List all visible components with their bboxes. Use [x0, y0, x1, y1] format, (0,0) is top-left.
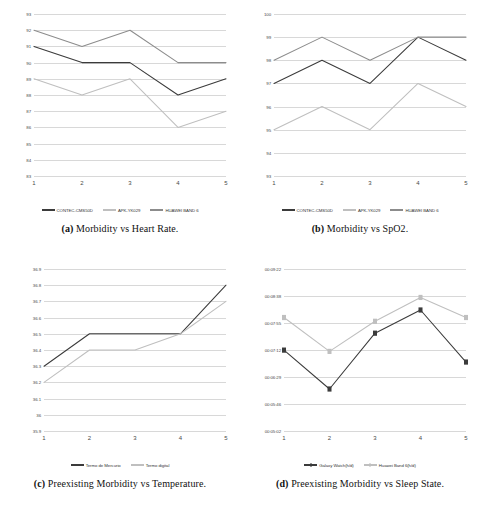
- legend-label: HUAWEI BAND 6: [405, 208, 438, 213]
- y-axis-tick-label: 36.1: [33, 396, 41, 401]
- y-axis-tick-label: 90: [26, 60, 31, 65]
- figure-grid: 838485868788899091929312345 CONTEC-CMS50…: [0, 0, 480, 510]
- data-point-marker: [464, 315, 468, 320]
- legend-swatch: [343, 209, 356, 211]
- data-point-marker: [327, 349, 331, 354]
- legend-swatch: [131, 464, 144, 466]
- data-point-marker: [418, 307, 422, 312]
- legend-item[interactable]: APK-YK029: [103, 208, 140, 213]
- legend-item[interactable]: HUAWEI BAND 6: [150, 208, 198, 213]
- legend-item[interactable]: CONTEC-CMS50D: [42, 208, 93, 213]
- x-axis-tick-label: 5: [224, 435, 227, 441]
- series-line: [34, 79, 226, 128]
- x-axis-tick-label: 2: [328, 435, 331, 441]
- caption-c: (c) Preexisting Morbidity vs Temperature…: [34, 478, 206, 489]
- caption-b: (b) Morbidity vs SpO2.: [312, 223, 409, 234]
- legend-item[interactable]: CONTEC-CMS50D: [282, 208, 333, 213]
- series-line: [44, 285, 226, 366]
- legend-item[interactable]: HUAWEI BAND 6: [390, 208, 438, 213]
- caption-tag-d: (d): [276, 478, 289, 489]
- legend-swatch: [150, 209, 163, 211]
- legend-label: CONTEC-CMS50D: [297, 208, 333, 213]
- gridline: [284, 431, 466, 432]
- y-axis-tick-label: 89: [26, 76, 31, 81]
- legend-a: CONTEC-CMS50DAPK-YK029HUAWEI BAND 6: [42, 204, 199, 216]
- y-axis-tick-label: 35.9: [33, 429, 41, 434]
- y-axis-tick-label: 86: [26, 125, 31, 130]
- x-axis-tick-label: 1: [32, 180, 35, 186]
- legend-d: Galaxy Watch(h/d)Huawei Band 6(h/d): [304, 459, 416, 471]
- series-layer: [44, 269, 226, 431]
- y-axis-tick-label: 00:07:55: [265, 321, 281, 326]
- x-axis-tick-label: 5: [224, 180, 227, 186]
- plot-area-c: 35.93636.136.236.336.436.536.636.736.836…: [44, 269, 226, 431]
- legend-label: Termo digital: [146, 463, 170, 468]
- chart-c: 35.93636.136.236.336.436.536.636.736.836…: [6, 261, 234, 457]
- x-axis-tick-label: 1: [272, 180, 275, 186]
- panel-a: 838485868788899091929312345 CONTEC-CMS50…: [0, 0, 240, 255]
- legend-item[interactable]: Termo digital: [131, 463, 170, 468]
- legend-item[interactable]: Galaxy Watch(h/d): [304, 463, 354, 468]
- y-axis-tick-label: 00:05:02: [265, 429, 281, 434]
- legend-c: Termo de MercurioTermo digital: [71, 459, 170, 471]
- gridline: [44, 431, 226, 432]
- y-axis-tick-label: 36.7: [33, 299, 41, 304]
- caption-tag-a: (a): [62, 223, 74, 234]
- legend-label: Galaxy Watch(h/d): [319, 463, 354, 468]
- data-point-marker: [373, 319, 377, 324]
- data-point-marker: [282, 348, 286, 353]
- y-axis-tick-label: 87: [26, 109, 31, 114]
- y-axis-tick-label: 83: [26, 174, 31, 179]
- caption-a: (a) Morbidity vs Heart Rate.: [62, 223, 179, 234]
- series-line: [44, 301, 226, 382]
- y-axis-tick-label: 36.3: [33, 364, 41, 369]
- y-axis-tick-label: 00:05:46: [265, 402, 281, 407]
- chart-a: 838485868788899091929312345: [6, 6, 234, 202]
- series-line: [274, 83, 466, 129]
- y-axis-tick-label: 92: [26, 28, 31, 33]
- series-layer: [34, 14, 226, 176]
- legend-item[interactable]: Huawei Band 6(h/d): [364, 463, 416, 468]
- y-axis-tick-label: 36.6: [33, 315, 41, 320]
- panel-b: 9394959697989910012345 CONTEC-CMS50DAPK-…: [240, 0, 480, 255]
- x-axis-tick-label: 4: [176, 180, 179, 186]
- x-axis-tick-label: 2: [80, 180, 83, 186]
- y-axis-tick-label: 100: [264, 12, 271, 17]
- y-axis-tick-label: 97: [266, 81, 271, 86]
- legend-swatch: [42, 209, 55, 211]
- data-point-marker: [373, 331, 377, 336]
- legend-swatch: [304, 464, 317, 466]
- y-axis-tick-label: 94: [266, 150, 271, 155]
- legend-item[interactable]: APK-YK029: [343, 208, 380, 213]
- legend-swatch: [390, 209, 403, 211]
- legend-item[interactable]: Termo de Mercurio: [71, 463, 121, 468]
- panel-c: 35.93636.136.236.336.436.536.636.736.836…: [0, 255, 240, 510]
- data-point-marker: [464, 359, 468, 364]
- legend-swatch: [282, 209, 295, 211]
- x-axis-tick-label: 4: [419, 435, 422, 441]
- x-axis-tick-label: 3: [373, 435, 376, 441]
- x-axis-tick-label: 1: [282, 435, 285, 441]
- x-axis-tick-label: 5: [464, 180, 467, 186]
- caption-tag-b: (b): [312, 223, 325, 234]
- y-axis-tick-label: 88: [26, 93, 31, 98]
- y-axis-tick-label: 93: [26, 12, 31, 17]
- gridline: [274, 176, 466, 177]
- y-axis-tick-label: 36.9: [33, 267, 41, 272]
- series-line: [34, 30, 226, 62]
- y-axis-tick-label: 36.8: [33, 283, 41, 288]
- x-axis-tick-label: 4: [179, 435, 182, 441]
- chart-d: 00:05:0200:05:4600:06:2900:07:1200:07:55…: [246, 261, 474, 457]
- plot-area-a: 838485868788899091929312345: [34, 14, 226, 176]
- y-axis-tick-label: 99: [266, 35, 271, 40]
- caption-text-a: Morbidity vs Heart Rate.: [73, 223, 178, 234]
- legend-label: APK-YK029: [358, 208, 380, 213]
- series-line: [274, 37, 466, 60]
- gridline: [34, 176, 226, 177]
- x-axis-tick-label: 3: [128, 180, 131, 186]
- chart-b: 9394959697989910012345: [246, 6, 474, 202]
- legend-b: CONTEC-CMS50DAPK-YK029HUAWEI BAND 6: [282, 204, 439, 216]
- legend-label: Huawei Band 6(h/d): [379, 463, 416, 468]
- x-axis-tick-label: 1: [42, 435, 45, 441]
- y-axis-tick-label: 36.4: [33, 348, 41, 353]
